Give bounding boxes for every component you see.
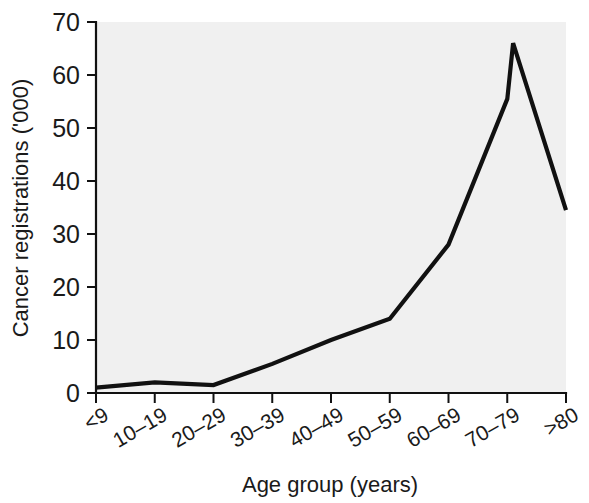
x-axis-tick-label: 20–29 [167, 403, 229, 452]
line-chart: 010203040506070 <910–1920–2930–3940–4950… [0, 0, 589, 503]
x-axis-tick-label: 40–49 [285, 403, 347, 452]
x-axis-tick-label: 70–79 [461, 403, 523, 452]
y-axis-tick-label: 30 [52, 220, 80, 248]
y-axis-tick-labels: 010203040506070 [52, 8, 80, 407]
y-axis-ticks [87, 22, 96, 393]
x-axis-tick-label: 30–39 [226, 403, 288, 452]
y-axis-tick-label: 10 [52, 326, 80, 354]
x-axis-tick-label: 60–69 [402, 403, 464, 452]
y-axis-tick-label: 40 [52, 167, 80, 195]
y-axis-title: Cancer registrations ('000) [8, 79, 33, 338]
x-axis-tick-label: 10–19 [109, 403, 171, 452]
x-axis-ticks [96, 393, 566, 403]
y-axis-tick-label: 20 [52, 273, 80, 301]
y-axis-tick-label: 0 [66, 379, 80, 407]
y-axis-tick-label: 70 [52, 8, 80, 36]
y-axis-tick-label: 60 [52, 61, 80, 89]
chart-figure: 010203040506070 <910–1920–2930–3940–4950… [0, 0, 589, 503]
y-axis-tick-label: 50 [52, 114, 80, 142]
x-axis-tick-label: <9 [80, 403, 112, 435]
x-axis-title: Age group (years) [242, 472, 418, 497]
x-axis-tick-label: 50–59 [344, 403, 406, 452]
x-axis-tick-label: >80 [540, 403, 582, 441]
x-axis-tick-labels: <910–1920–2930–3940–4950–5960–6970–79>80 [80, 403, 582, 452]
plot-area-background [96, 22, 566, 393]
